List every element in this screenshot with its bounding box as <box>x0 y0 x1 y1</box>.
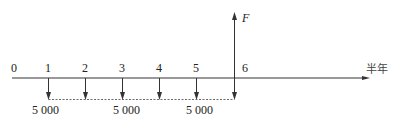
period-label: 4 <box>156 61 162 75</box>
down-arrow-icon <box>232 78 237 100</box>
period-label: 3 <box>119 61 125 75</box>
period-labels: 0 1 2 3 4 5 6 <box>11 61 248 75</box>
period-label: 5 <box>193 61 199 75</box>
future-value-label: F <box>241 11 250 25</box>
amount-label: 5 000 <box>32 103 59 117</box>
period-label: 6 <box>242 61 248 75</box>
down-arrow-icon <box>194 78 199 100</box>
down-arrow-icon <box>157 78 162 100</box>
amount-labels: 5 000 5 000 5 000 <box>32 103 213 117</box>
down-arrow-icon <box>46 78 51 100</box>
amount-label: 5 000 <box>186 103 213 117</box>
outflow-arrows <box>46 78 237 100</box>
down-arrow-icon <box>120 78 125 100</box>
up-arrow-icon <box>232 12 237 20</box>
period-label: 1 <box>45 61 51 75</box>
period-label: 0 <box>11 61 17 75</box>
time-axis <box>12 76 370 80</box>
axis-arrow-icon <box>362 76 370 80</box>
axis-unit-label: 半年 <box>366 62 388 76</box>
down-arrow-icon <box>83 78 88 100</box>
amount-label: 5 000 <box>113 103 140 117</box>
period-label: 2 <box>82 61 88 75</box>
cash-flow-diagram: 0 1 2 3 4 5 6 半年 F <box>0 0 398 127</box>
